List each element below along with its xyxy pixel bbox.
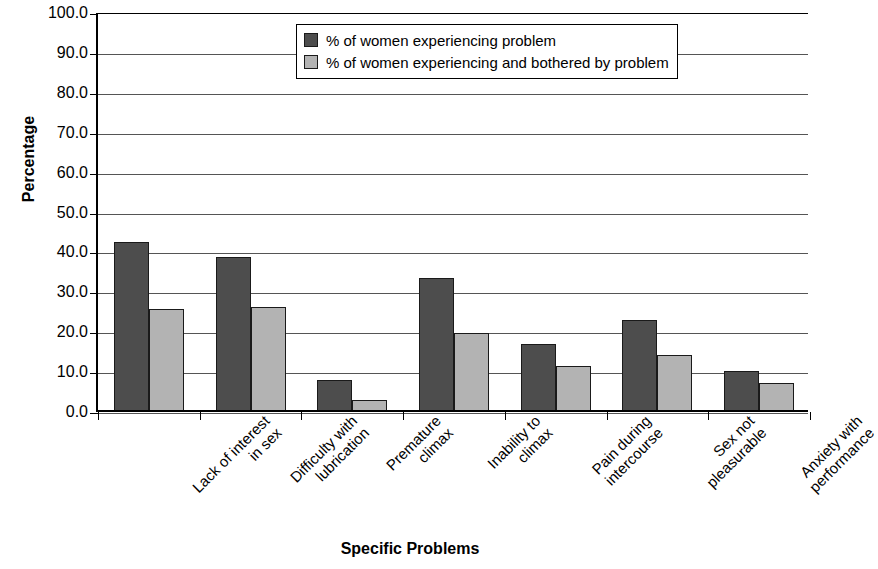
y-axis-tick-labels: 100.090.080.070.060.050.040.030.020.010.…	[24, 0, 88, 569]
legend: % of women experiencing problem % of wom…	[296, 24, 678, 79]
y-axis-tick-mark	[90, 214, 98, 215]
bar	[556, 366, 591, 412]
bar	[114, 242, 149, 412]
dark-swatch-icon	[304, 33, 318, 47]
y-axis-tick-label: 50.0	[24, 207, 88, 219]
bar	[622, 320, 657, 412]
bar	[724, 371, 759, 412]
bar	[317, 380, 352, 412]
bar	[521, 344, 556, 412]
y-axis-tick-mark	[90, 134, 98, 135]
x-axis-category-label: Difficulty withlubrication	[286, 412, 372, 498]
y-axis-tick-mark	[90, 174, 98, 175]
y-axis-tick-label: 10.0	[24, 366, 88, 378]
y-axis-tick-mark	[90, 94, 98, 95]
bar	[657, 355, 692, 412]
x-axis-category-label: Inability toclimax	[484, 412, 556, 484]
y-axis-tick-mark	[90, 253, 98, 254]
light-swatch-icon	[304, 55, 318, 69]
y-axis-tick-mark	[90, 333, 98, 334]
y-axis-tick-label: 70.0	[24, 127, 88, 139]
y-axis-tick-label: 100.0	[24, 7, 88, 19]
y-axis-tick-label: 0.0	[24, 406, 88, 418]
y-axis-tick-mark	[90, 373, 98, 374]
y-axis-tick-mark	[90, 14, 98, 15]
bar	[759, 383, 794, 412]
y-axis-tick-label: 90.0	[24, 47, 88, 59]
x-axis-category-label: Lack of interestin sex	[189, 412, 285, 508]
x-axis-title: Specific Problems	[0, 540, 820, 558]
x-axis-category-label: Prematureclimax	[383, 412, 457, 486]
bar	[419, 278, 454, 412]
y-axis-tick-label: 20.0	[24, 326, 88, 338]
y-axis-tick-label: 60.0	[24, 167, 88, 179]
y-axis-tick-mark	[90, 293, 98, 294]
legend-entry: % of women experiencing problem	[304, 29, 669, 51]
y-axis-tick-label: 40.0	[24, 246, 88, 258]
bar	[149, 309, 184, 412]
bar-group	[200, 14, 302, 412]
bar-group	[98, 14, 200, 412]
legend-entry: % of women experiencing and bothered by …	[304, 51, 669, 73]
bar	[216, 257, 251, 412]
x-axis-category-labels: Lack of interestin sexDifficulty withlub…	[96, 412, 808, 527]
bar-group	[708, 14, 810, 412]
bar	[454, 333, 489, 412]
x-axis-category-label: Sex notpleasurable	[690, 412, 769, 491]
x-axis-tick-mark	[810, 412, 811, 420]
y-axis-tick-label: 30.0	[24, 286, 88, 298]
y-axis-tick-label: 80.0	[24, 87, 88, 99]
legend-entry-label: % of women experiencing and bothered by …	[326, 55, 669, 70]
x-axis-category-label: Pain duringintercourse	[588, 412, 666, 490]
y-axis-tick-mark	[90, 54, 98, 55]
x-axis-category-label: Anxiety withperformance	[794, 412, 878, 496]
legend-entry-label: % of women experiencing problem	[326, 33, 556, 48]
bar	[251, 307, 286, 412]
